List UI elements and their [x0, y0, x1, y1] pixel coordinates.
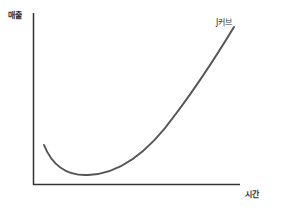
- j-curve-diagram: [0, 0, 283, 216]
- j-curve-line: [44, 27, 234, 175]
- x-axis-label: 시간: [245, 188, 259, 199]
- y-axis-label: 매출: [8, 9, 22, 20]
- curve-label: J커브: [216, 16, 232, 27]
